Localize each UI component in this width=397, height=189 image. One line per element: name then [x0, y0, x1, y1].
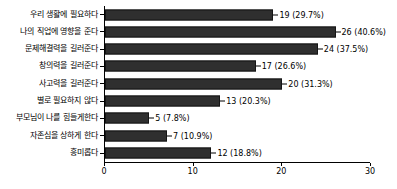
- bar: [105, 148, 211, 159]
- bar: [105, 78, 282, 89]
- leader-line: [318, 49, 323, 50]
- x-axis-tick: [370, 163, 371, 166]
- y-axis-tick: [100, 153, 104, 154]
- x-axis-tick-label: 0: [101, 167, 106, 176]
- bar-row: 자존심을 상하게 한다7 (10.9%): [0, 127, 397, 144]
- bar: [105, 26, 336, 37]
- bar-rows: 우리 생활에 필요하다19 (29.7%)나의 직업에 영향을 준다26 (40…: [0, 0, 397, 163]
- y-axis-tick: [100, 49, 104, 50]
- y-axis-tick: [100, 66, 104, 67]
- x-axis-tick-label: 30: [365, 167, 375, 176]
- value-label: 19 (29.7%): [279, 10, 323, 19]
- category-label: 나의 직업에 영향을 준다: [20, 27, 98, 37]
- category-label: 부모님이 나를 힘들게한다: [16, 113, 98, 123]
- x-axis-tick: [193, 163, 194, 166]
- value-label: 7 (10.9%): [173, 131, 212, 140]
- bar-row: 흥미롭다12 (18.8%): [0, 145, 397, 162]
- value-label: 13 (20.3%): [226, 97, 270, 106]
- value-label: 5 (7.8%): [155, 114, 189, 123]
- bar-row: 나의 직업에 영향을 준다26 (40.6%): [0, 23, 397, 40]
- x-axis-tick: [281, 163, 282, 166]
- leader-line: [167, 135, 172, 136]
- bar-row: 별로 필요하지 않다13 (20.3%): [0, 93, 397, 110]
- leader-line: [282, 83, 287, 84]
- y-axis-tick: [100, 31, 104, 32]
- bar: [105, 96, 220, 107]
- leader-line: [336, 31, 341, 32]
- leader-line: [273, 14, 278, 15]
- x-axis-tick-label: 10: [188, 167, 198, 176]
- leader-line: [220, 101, 225, 102]
- bar: [105, 44, 318, 55]
- bar-row: 문제해결력을 길러준다24 (37.5%): [0, 41, 397, 58]
- y-axis-tick: [100, 135, 104, 136]
- category-label: 창의력을 길러준다: [39, 61, 98, 71]
- bar: [105, 130, 167, 141]
- value-label: 24 (37.5%): [324, 45, 368, 54]
- leader-line: [149, 118, 154, 119]
- leader-line: [211, 153, 216, 154]
- bar-row: 사고력을 길러준다20 (31.3%): [0, 75, 397, 92]
- category-label: 자존심을 상하게 한다: [30, 131, 98, 141]
- y-axis-tick: [100, 83, 104, 84]
- category-label: 우리 생활에 필요하다: [30, 10, 98, 20]
- category-label: 흥미롭다: [70, 148, 98, 158]
- x-axis-tick: [104, 163, 105, 166]
- bar-chart: 우리 생활에 필요하다19 (29.7%)나의 직업에 영향을 준다26 (40…: [0, 0, 397, 189]
- bar-row: 우리 생활에 필요하다19 (29.7%): [0, 6, 397, 23]
- bar: [105, 113, 149, 124]
- bar: [105, 9, 273, 20]
- category-label: 문제해결력을 길러준다: [25, 44, 98, 54]
- bar-row: 부모님이 나를 힘들게한다5 (7.8%): [0, 110, 397, 127]
- value-label: 20 (31.3%): [288, 79, 332, 88]
- value-label: 12 (18.8%): [217, 149, 261, 158]
- leader-line: [256, 66, 261, 67]
- category-label: 별로 필요하지 않다: [37, 96, 98, 106]
- bar: [105, 61, 256, 72]
- y-axis-tick: [100, 101, 104, 102]
- category-label: 사고력을 길러준다: [39, 79, 98, 89]
- value-label: 17 (26.6%): [262, 62, 306, 71]
- bar-row: 창의력을 길러준다17 (26.6%): [0, 58, 397, 75]
- y-axis-tick: [100, 14, 104, 15]
- y-axis-tick: [100, 118, 104, 119]
- value-label: 26 (40.6%): [342, 27, 386, 36]
- x-axis-tick-label: 20: [276, 167, 286, 176]
